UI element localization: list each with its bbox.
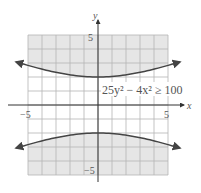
y-axis-label: y [92, 10, 98, 21]
x-axis-label: x [186, 100, 192, 111]
y-min-tick-label: −5 [84, 165, 95, 176]
x-min-tick-label: −5 [20, 109, 31, 120]
equation-label: 25y² − 4x² ≥ 100 [102, 83, 183, 97]
x-max-tick-label: 5 [164, 109, 169, 120]
hyperbola-inequality-graph: 25y² − 4x² ≥ 100 y x 5 −5 −5 5 [0, 0, 201, 193]
y-max-tick-label: 5 [88, 32, 93, 43]
